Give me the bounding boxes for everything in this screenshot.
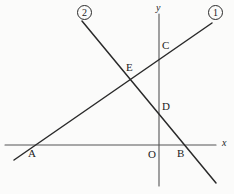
point-label-e: E xyxy=(126,62,133,73)
x-axis-label: x xyxy=(222,138,226,148)
line-1-stroke xyxy=(14,23,212,160)
y-axis-label: y xyxy=(156,3,160,13)
figure-canvas xyxy=(0,0,234,194)
line-2-circled-label: 2 xyxy=(77,5,92,20)
point-label-c: C xyxy=(162,40,169,51)
point-label-b: B xyxy=(177,148,184,159)
origin-label: O xyxy=(148,149,156,160)
geometry-figure: x y O 1 2 ABCDE xyxy=(0,0,234,194)
line-1-circled-label: 1 xyxy=(208,5,223,20)
point-label-a: A xyxy=(28,148,36,159)
point-label-d: D xyxy=(162,101,170,112)
